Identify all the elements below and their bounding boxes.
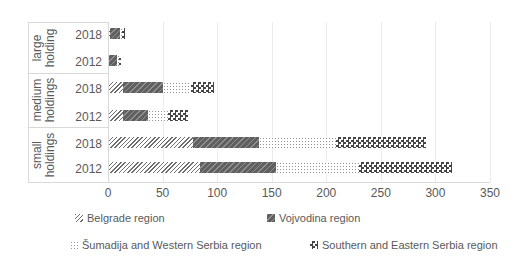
bar-small-holdings-2018 — [108, 137, 426, 148]
gridline-350 — [490, 22, 491, 182]
category-group-separator — [28, 73, 108, 74]
group-label: large holding — [31, 19, 56, 77]
x-tick-label-300: 300 — [415, 186, 455, 200]
bar-segment — [336, 137, 425, 148]
legend-label: Vojvodina region — [279, 212, 360, 224]
category-group-separator — [28, 127, 108, 128]
legend-swatch — [267, 214, 275, 222]
x-axis-line — [108, 182, 490, 183]
gridline-100 — [217, 22, 218, 182]
year-label: 2012 — [68, 111, 102, 123]
year-label: 2018 — [68, 83, 102, 95]
bar-segment — [359, 162, 452, 173]
legend-swatch — [310, 241, 318, 249]
bar-small-holdings-2012 — [108, 162, 452, 173]
stacked-bar-chart: 201820122018201220182012large holdingmed… — [0, 0, 528, 266]
group-label: medium holdings — [31, 71, 56, 129]
value-axis-zero-line — [108, 22, 109, 182]
bar-segment — [119, 55, 121, 66]
bar-segment — [109, 55, 117, 66]
bar-segment — [108, 137, 193, 148]
bar-large-holding-2018 — [108, 28, 125, 39]
category-group-separator — [28, 22, 108, 23]
bar-segment — [163, 82, 191, 93]
x-tick-label-200: 200 — [306, 186, 346, 200]
x-tick-label-150: 150 — [252, 186, 292, 200]
bar-segment — [148, 110, 168, 121]
bar-segment — [108, 82, 123, 93]
bar-medium-holdings-2018 — [108, 82, 214, 93]
bar-segment — [123, 110, 148, 121]
bar-segment — [108, 162, 200, 173]
year-label: 2018 — [68, 29, 102, 41]
bar-segment — [123, 82, 162, 93]
legend-label: Šumadija and Western Serbia region — [82, 239, 262, 251]
group-label: small holdings — [31, 126, 56, 184]
bar-segment — [108, 110, 123, 121]
bar-segment — [259, 137, 336, 148]
x-tick-label-0: 0 — [88, 186, 128, 200]
gridline-200 — [326, 22, 327, 182]
bar-large-holding-2012 — [108, 55, 121, 66]
bar-segment — [193, 137, 258, 148]
x-tick-label-50: 50 — [143, 186, 183, 200]
legend-label: Belgrade region — [87, 212, 165, 224]
bar-medium-holdings-2012 — [108, 110, 188, 121]
plot-area — [108, 22, 490, 182]
gridline-300 — [435, 22, 436, 182]
category-group-separator — [28, 182, 108, 183]
gridline-50 — [163, 22, 164, 182]
bar-segment — [122, 28, 125, 39]
x-tick-label-100: 100 — [197, 186, 237, 200]
bar-segment — [110, 28, 120, 39]
year-label: 2012 — [68, 56, 102, 68]
legend-item-1: Vojvodina region — [267, 212, 360, 224]
year-label: 2012 — [68, 163, 102, 175]
legend-item-2: Šumadija and Western Serbia region — [70, 239, 262, 251]
bar-segment — [168, 110, 188, 121]
legend-label: Southern and Eastern Serbia region — [322, 239, 498, 251]
gridline-150 — [272, 22, 273, 182]
legend-item-0: Belgrade region — [75, 212, 165, 224]
bar-segment — [200, 162, 276, 173]
legend-swatch — [75, 214, 83, 222]
category-axis-outer-line — [28, 22, 29, 182]
x-tick-label-250: 250 — [361, 186, 401, 200]
year-label: 2018 — [68, 138, 102, 150]
bar-segment — [191, 82, 214, 93]
x-tick-label-350: 350 — [470, 186, 510, 200]
gridline-250 — [381, 22, 382, 182]
legend-swatch — [70, 241, 78, 249]
bar-segment — [276, 162, 359, 173]
legend-item-3: Southern and Eastern Serbia region — [310, 239, 498, 251]
